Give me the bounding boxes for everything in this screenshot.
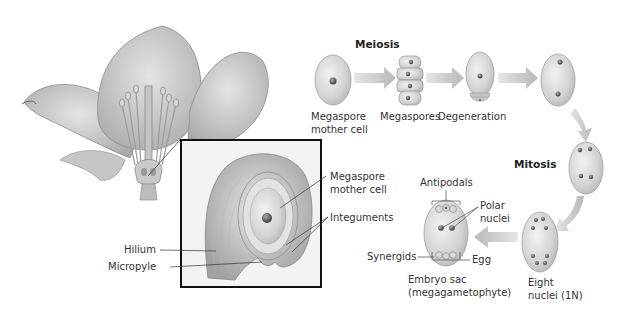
micropyle-label: Micropyle [108,261,156,272]
megaspore-mother-cell [315,55,351,105]
megaspore-mother-cell-inset-label: Megaspore [330,171,385,182]
megaspore-mother-cell-inset-label-line2: mother cell [330,184,387,195]
eight-nuclei-cell [522,212,558,272]
mitosis-title: Mitosis [514,158,556,170]
embryo-sac-label: Embryo sac [408,274,467,285]
meiosis-title: Meiosis [355,38,399,50]
synergids-label: Synergids [367,251,416,262]
megagametogenesis-diagram: Megaspore mother cell Integuments Hilium… [0,0,624,312]
eight-nuclei-label-line2: nuclei (1N) [528,290,583,301]
polar-nuclei-label: Polar [480,200,506,211]
hilium-label: Hilium [124,244,156,255]
megaspore-mother-cell-label: Megaspore [311,111,366,122]
arrow-left [474,226,518,248]
integuments-label: Integuments [330,212,393,223]
arrow-right [498,67,538,89]
arrow-right [426,67,464,89]
megaspores [397,56,423,105]
eight-nuclei-label: Eight [528,277,554,288]
megaspores-label: Megaspores [380,111,440,122]
arrow-right [354,67,396,89]
degeneration-cell [466,52,494,101]
arrow-curved-down-left [554,196,584,231]
embryo-sac-label-line2: (megagametophyte) [408,287,511,298]
antipodals-label: Antipodals [420,177,473,188]
degeneration-label: Degeneration [438,111,506,122]
arrow-curved-down [570,108,592,142]
ovule-inset [160,140,328,287]
four-nuclei-cell [569,142,603,194]
two-nuclei-cell [541,54,575,106]
egg-label: Egg [472,254,491,265]
megaspore-mother-cell-label-line2: mother cell [311,124,368,135]
embryo-sac [418,190,478,266]
polar-nuclei-label-line2: nuclei [480,213,510,224]
